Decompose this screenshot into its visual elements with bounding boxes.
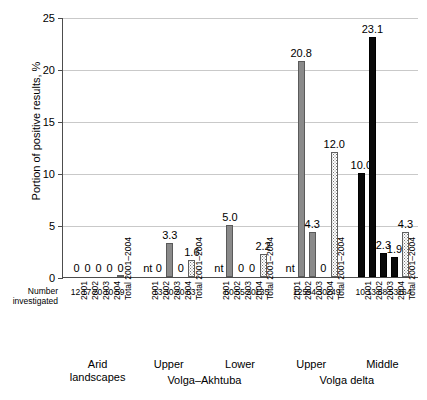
bar [298,61,305,277]
y-tick-mark [58,70,63,71]
y-tick-label: 10 [29,169,55,179]
number-investigated-label: Number investigated [0,286,58,306]
bar [380,253,387,277]
x-axis-year-label: Total 2001–2004 [337,237,346,300]
x-axis-year-label: Total 2001–2004 [408,237,417,300]
y-tick-mark [58,18,63,19]
x-axis-year-label: Total 2001–2004 [266,237,275,300]
bar-value-label: 4.3 [294,219,330,230]
group-separator [205,18,206,278]
y-tick-label: 20 [29,65,55,75]
group-separator [134,18,135,278]
bar-value-label: 3.3 [152,230,188,241]
bar-value-label: 5.0 [212,212,248,223]
gridline [63,18,418,19]
chart-container: Portion of positive results, % 051015202… [0,0,427,400]
supergroup-label: Volga delta [287,374,407,387]
y-tick-mark [58,174,63,175]
y-tick-label: 15 [29,117,55,127]
group-label: Middle [332,358,427,371]
y-tick-mark [58,226,63,227]
x-axis-year-label: Total 2001–2004 [195,237,204,300]
x-axis-year-label: Total 2001–2004 [124,237,133,300]
bar-value-label: 23.1 [354,24,390,35]
y-tick-label: 5 [29,221,55,231]
bar-value-label: 4.3 [387,219,423,230]
y-tick-mark [58,122,63,123]
number-investigated-text: Number investigated [13,286,58,306]
group-separator [277,18,278,278]
group-separator [348,18,349,278]
y-tick-label: 0 [29,273,55,283]
gridline [63,70,418,71]
y-tick-mark [58,278,63,279]
gridline [63,122,418,123]
bar-value-label: 20.8 [283,48,319,59]
bar [391,257,398,277]
plot-area: 051015202500000nt03.301.6nt5.0002.2nt20.… [62,18,418,278]
supergroup-label: Volga–Akhtuba [144,374,264,387]
bar [358,173,365,277]
y-tick-label: 25 [29,13,55,23]
y-axis-title: Portion of positive results, % [30,31,42,231]
